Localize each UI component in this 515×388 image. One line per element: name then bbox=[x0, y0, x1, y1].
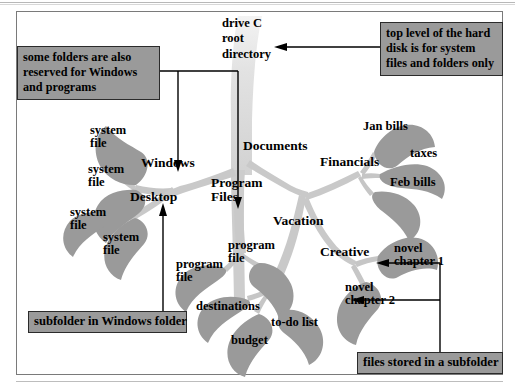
label-program-files: Program Files bbox=[211, 176, 262, 204]
label-program-file-1: program file bbox=[176, 258, 223, 284]
callout-subfolder: subfolder in Windows folder bbox=[28, 311, 187, 333]
diagram-stage: drive C root directory Windows Desktop P… bbox=[0, 0, 515, 388]
label-financials: Financials bbox=[320, 155, 379, 169]
label-documents: Documents bbox=[243, 139, 308, 153]
label-system-file-4: system file bbox=[103, 231, 139, 257]
label-system-file-2: system file bbox=[88, 163, 124, 189]
label-desktop: Desktop bbox=[130, 190, 177, 204]
label-novel-chapter-2: novel chapter 2 bbox=[345, 281, 395, 307]
label-destinations: destinations bbox=[196, 300, 260, 313]
label-creative: Creative bbox=[320, 245, 369, 259]
callout-windows-reserved: some folders are also reserved for Windo… bbox=[17, 46, 160, 100]
label-budget: budget bbox=[231, 334, 268, 347]
label-system-file-1: system file bbox=[90, 124, 126, 150]
callout-top-level: top level of the hard disk is for system… bbox=[380, 22, 503, 76]
callout-files-subfolder: files stored in a subfolder bbox=[357, 352, 503, 374]
connector-subfolder bbox=[159, 203, 167, 312]
label-vacation: Vacation bbox=[273, 214, 324, 228]
label-root-directory: drive C root directory bbox=[222, 16, 271, 62]
label-taxes: taxes bbox=[410, 147, 437, 160]
label-to-do-list: to-do list bbox=[271, 316, 318, 329]
label-system-file-3: system file bbox=[70, 206, 106, 232]
label-novel-chapter-1: novel chapter 1 bbox=[394, 242, 444, 268]
label-jan-bills: Jan bills bbox=[363, 120, 408, 133]
label-program-file-2: program file bbox=[228, 239, 275, 265]
label-windows: Windows bbox=[141, 156, 195, 170]
leaf-feb-bills bbox=[372, 191, 420, 241]
label-feb-bills: Feb bills bbox=[390, 176, 436, 189]
connector-top-level bbox=[274, 43, 380, 51]
